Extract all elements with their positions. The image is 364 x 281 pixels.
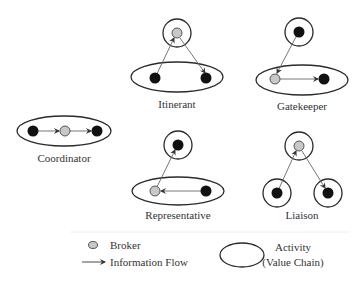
activity-legend-icon: [220, 243, 264, 267]
legend-flow-label: Information Flow: [110, 256, 188, 268]
role-label-coordinator: Coordinator: [37, 152, 90, 164]
actor-node: [201, 73, 212, 84]
role-label-representative: Representative: [145, 209, 210, 221]
role-label-itinerant: Itinerant: [158, 98, 195, 110]
actor-node: [319, 74, 330, 85]
broker-node: [60, 126, 70, 136]
broker-node: [294, 141, 304, 151]
actor-node: [92, 126, 103, 137]
itinerant-diagram: Itinerant: [131, 19, 223, 110]
broker-node: [270, 74, 280, 84]
role-label-gatekeeper: Gatekeeper: [277, 100, 327, 112]
brokerage-roles-diagram: Itinerant Gatekeeper Coordinator Represe…: [0, 0, 364, 281]
flow-arrow: [277, 151, 296, 193]
legend: Broker Information Flow Activity (Value …: [82, 239, 324, 269]
actor-node: [28, 126, 39, 137]
gatekeeper-diagram: Gatekeeper: [256, 18, 348, 112]
actor-node: [294, 27, 305, 38]
flow-arrow: [180, 38, 205, 73]
representative-diagram: Representative: [132, 131, 224, 221]
legend-value-chain-label: (Value Chain): [262, 256, 324, 269]
broker-node: [172, 28, 182, 38]
legend-broker-label: Broker: [110, 239, 141, 251]
role-label-liaison: Liaison: [286, 209, 319, 221]
legend-activity-label: Activity: [275, 241, 312, 253]
actor-node: [272, 188, 283, 199]
flow-arrow: [302, 151, 325, 188]
liaison-diagram: Liaison: [263, 132, 342, 221]
broker-legend-icon: [89, 242, 98, 249]
actor-node: [150, 73, 161, 84]
broker-node: [150, 186, 160, 196]
flow-arrow: [155, 38, 174, 78]
actor-node: [173, 140, 184, 151]
actor-node: [201, 186, 212, 197]
actor-node: [323, 188, 334, 199]
flow-arrow: [155, 150, 175, 191]
coordinator-diagram: Coordinator: [17, 116, 111, 164]
